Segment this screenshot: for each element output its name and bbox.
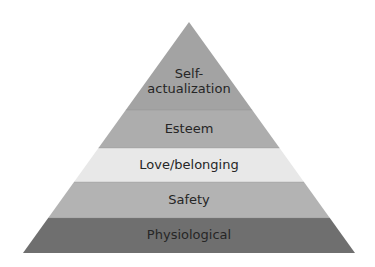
label-physiological: Physiological: [147, 227, 231, 242]
pyramid-layers: [23, 22, 355, 253]
label-esteem: Esteem: [165, 121, 214, 136]
label-love-belonging: Love/belonging: [139, 157, 238, 172]
hierarchy-pyramid: Self-actualizationEsteemLove/belongingSa…: [0, 0, 375, 267]
label-self-actualization-line-2: actualization: [147, 81, 230, 96]
label-safety: Safety: [168, 192, 210, 207]
label-self-actualization-line-1: Self-: [175, 66, 204, 81]
